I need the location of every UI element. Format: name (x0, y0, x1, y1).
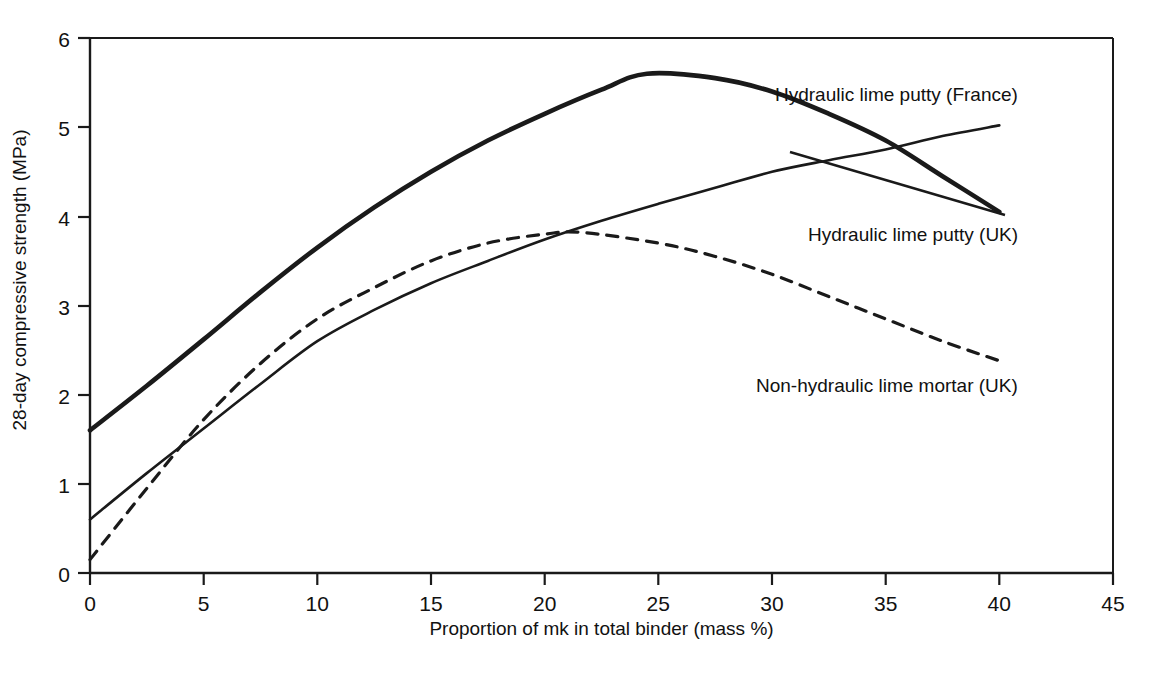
y-tick-label-5: 5 (40, 117, 70, 141)
x-tick-label-35: 35 (866, 592, 906, 616)
y-axis-ticks (78, 38, 90, 573)
y-tick-label-4: 4 (40, 207, 70, 231)
x-tick-label-5: 5 (184, 592, 224, 616)
annotation-leader-lines (790, 152, 1005, 218)
y-tick-label-2: 2 (40, 385, 70, 409)
y-axis-title-text: 28-day compressive strength (MPa) (9, 130, 31, 431)
x-tick-label-15: 15 (411, 592, 451, 616)
x-tick-label-30: 30 (752, 592, 792, 616)
data-series-group (90, 73, 999, 560)
x-tick-label-25: 25 (638, 592, 678, 616)
x-tick-label-40: 40 (979, 592, 1019, 616)
series-label-hydraulic-lime-putty-uk: Hydraulic lime putty (UK) (808, 224, 1018, 246)
y-axis-title: 28-day compressive strength (MPa) (0, 0, 40, 560)
y-tick-label-0: 0 (40, 563, 70, 587)
x-tick-label-10: 10 (297, 592, 337, 616)
y-tick-label-6: 6 (40, 28, 70, 52)
series-label-hydraulic-lime-putty-france: Hydraulic lime putty (France) (775, 84, 1018, 106)
x-tick-label-20: 20 (525, 592, 565, 616)
y-tick-label-1: 1 (40, 474, 70, 498)
x-axis-title: Proportion of mk in total binder (mass %… (90, 618, 1113, 640)
x-tick-label-45: 45 (1093, 592, 1133, 616)
x-axis-ticks (90, 573, 1113, 585)
chart-figure: 28-day compressive strength (MPa) Propor… (0, 0, 1152, 678)
series-label-non-hydraulic-lime-mortar-uk: Non-hydraulic lime mortar (UK) (756, 375, 1018, 397)
x-tick-label-0: 0 (70, 592, 110, 616)
y-tick-label-3: 3 (40, 296, 70, 320)
